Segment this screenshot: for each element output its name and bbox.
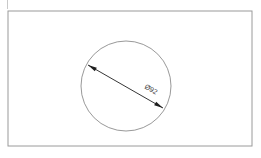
drawing-border [8,11,252,146]
drawing-screenshot: Ø92 [0,0,261,158]
drawing-canvas: Ø92 [0,0,261,158]
